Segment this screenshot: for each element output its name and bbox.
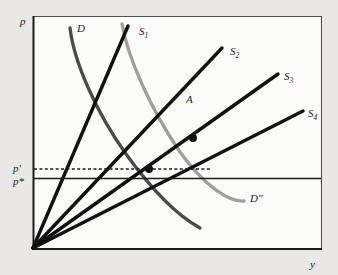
price-label-p-prime: p′ (12, 162, 22, 174)
curve-label-D-double-prime: D″ (249, 192, 263, 204)
point-equilibrium-low-dot (145, 165, 153, 173)
curve-label-D: D (76, 22, 85, 34)
y-axis-label: p (19, 15, 26, 27)
figure-page: p y p′ p* D D″ S1 S2 S3 S4 A (0, 0, 338, 275)
point-label-A: A (185, 93, 193, 105)
point-A-dot (189, 134, 197, 142)
curve-label-S4-subscript: 4 (314, 113, 318, 122)
curve-label-S1-subscript: 1 (145, 31, 149, 40)
x-axis-label: y (309, 258, 315, 270)
supply-demand-figure: p y p′ p* D D″ S1 S2 S3 S4 A (0, 0, 338, 275)
price-label-p-star: p* (12, 175, 25, 187)
curve-label-S3-subscript: 3 (289, 76, 294, 85)
curve-label-S2-subscript: 2 (236, 51, 240, 60)
